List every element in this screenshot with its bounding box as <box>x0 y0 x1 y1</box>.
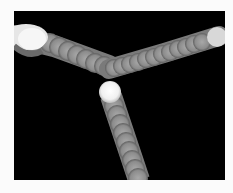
lower-trail <box>104 96 148 180</box>
stroboscopic-photo <box>14 11 225 180</box>
upper-right-trail <box>105 27 225 77</box>
ball-center <box>99 81 121 103</box>
motion-trails <box>14 11 225 180</box>
